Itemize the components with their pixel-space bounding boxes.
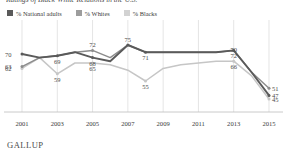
x-tick-label: 2005	[86, 120, 99, 128]
data-point-marker	[21, 65, 24, 68]
data-label: 75	[125, 36, 132, 43]
data-label: 69	[54, 58, 61, 65]
legend-swatch-icon	[124, 10, 130, 16]
x-tick-label: 2007	[121, 120, 134, 128]
data-label: 45	[272, 96, 279, 103]
data-label: 71	[142, 54, 149, 61]
x-axis: 20012003200520072009201120132015	[0, 120, 287, 132]
data-point-marker	[126, 44, 129, 47]
plot-area: 7069687571724763725162596555664570	[0, 20, 287, 118]
legend-swatch-icon	[7, 10, 13, 16]
data-label: 55	[142, 83, 149, 90]
data-label: 72	[89, 41, 96, 48]
data-point-marker	[268, 98, 271, 101]
data-label: 59	[54, 76, 61, 83]
legend-label: % Whites	[85, 10, 110, 17]
data-label: 66	[230, 63, 237, 70]
x-tick-label: 2015	[262, 120, 275, 128]
chart-legend: % National adults % Whites % Blacks	[7, 8, 157, 18]
x-tick-label: 2011	[192, 120, 205, 128]
data-label: 70	[230, 46, 237, 53]
legend-label: % Blacks	[133, 10, 157, 17]
data-point-marker	[21, 53, 24, 56]
data-label: 51	[272, 85, 279, 92]
chart-canvas: 7069687571724763725162596555664570	[0, 20, 287, 118]
data-point-marker	[268, 87, 271, 90]
data-point-marker	[268, 94, 271, 97]
legend-swatch-icon	[76, 10, 82, 16]
legend-item-whites: % Whites	[76, 10, 110, 17]
x-tick-label: 2013	[227, 120, 240, 128]
data-label: 70	[5, 51, 12, 58]
legend-item-blacks: % Blacks	[124, 10, 157, 17]
data-label: 72	[230, 52, 237, 59]
legend-label: % National adults	[16, 10, 62, 17]
data-label: 62	[5, 65, 12, 72]
x-tick-label: 2003	[51, 120, 64, 128]
gallup-wordmark: GALLUP	[7, 140, 44, 150]
x-tick-label: 2009	[157, 120, 170, 128]
chart-title: Ratings of Black-White Relations in the …	[6, 0, 281, 4]
legend-item-national-adults: % National adults	[7, 10, 62, 17]
x-tick-label: 2001	[15, 120, 28, 128]
data-point-marker	[91, 49, 94, 52]
gallup-line-chart: Ratings of Black-White Relations in the …	[0, 0, 287, 158]
data-label: 65	[89, 65, 96, 72]
